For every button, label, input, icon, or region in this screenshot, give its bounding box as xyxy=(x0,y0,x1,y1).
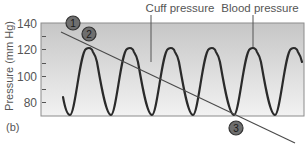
y-axis-label: Pressure (mm Hg) xyxy=(3,21,15,111)
chart-svg: 140 120 100 80 Pressure (mm Hg) (b) Cuff… xyxy=(0,0,308,145)
marker-2: 2 xyxy=(82,27,96,41)
marker-1: 1 xyxy=(66,16,80,30)
marker-3: 3 xyxy=(229,121,243,135)
y-tick-120: 120 xyxy=(17,43,37,57)
blood-pressure-label: Blood pressure xyxy=(221,2,298,14)
y-tick-140: 140 xyxy=(17,17,37,31)
panel-label: (b) xyxy=(6,121,19,133)
y-axis-tick-labels: 140 120 100 80 xyxy=(17,17,37,110)
marker-1-label: 1 xyxy=(70,18,76,29)
marker-3-label: 3 xyxy=(233,123,239,134)
cuff-pressure-label: Cuff pressure xyxy=(146,2,215,14)
marker-2-label: 2 xyxy=(86,29,92,40)
blood-pressure-figure: 140 120 100 80 Pressure (mm Hg) (b) Cuff… xyxy=(0,0,308,145)
y-tick-100: 100 xyxy=(17,70,37,84)
y-tick-80: 80 xyxy=(24,96,38,110)
